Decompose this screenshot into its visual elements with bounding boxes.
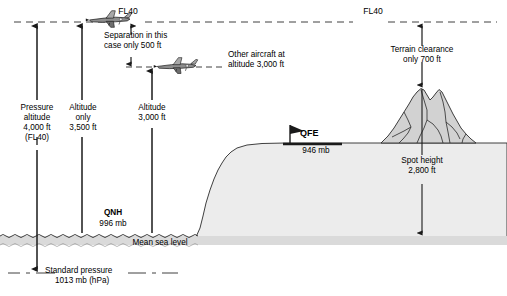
other-aircraft-label-line1: Other aircraft at [228,50,320,60]
altitude-only-label-line3: 3,500 ft [56,123,110,133]
pressure-altitude-label-line4: (FL40) [8,133,66,143]
qnh-label: QNH [93,208,133,218]
standard-pressure-label: Standard pressure [45,266,155,276]
spot-height-label-line2: 2,800 ft [388,166,456,176]
altitude-3000-label-line2: 3,000 ft [124,113,180,123]
separation-label-line1: Separation in this [104,31,194,41]
altimetry-diagram: FL40 FL40 Separation in this case only 5… [0,0,507,296]
aircraft-at-3000ft-icon [154,58,198,74]
qfe-value: 946 mb [291,146,341,156]
fl40-label-right: FL40 [355,7,391,17]
mean-sea-level-label: Mean sea level [110,238,210,248]
altitude-only-label-line1: Altitude [56,103,110,113]
qfe-label: QFE [300,129,340,139]
separation-label-line2: case only 500 ft [104,41,199,51]
standard-pressure-value: 1013 mb (hPa) [55,276,155,286]
mountain [381,89,476,144]
terrain-clearance-label-line2: only 700 ft [372,55,472,65]
terrain-landmass [196,143,507,237]
terrain-clearance-label-line1: Terrain clearance [372,45,472,55]
fl40-label-left: FL40 [110,7,146,17]
altitude-only-label-line2: only [56,113,110,123]
qnh-value: 996 mb [91,219,135,229]
spot-height-label-line1: Spot height [388,156,456,166]
other-aircraft-label-line2: altitude 3,000 ft [228,60,320,70]
altitude-3000-label-line1: Altitude [124,103,180,113]
